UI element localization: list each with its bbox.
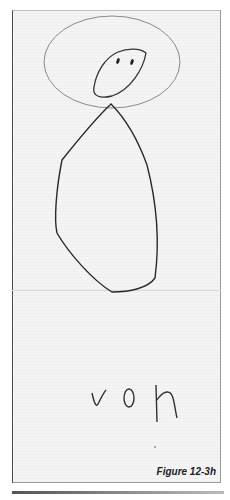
left-eye [116, 58, 121, 65]
head-outline [94, 49, 146, 97]
halo-oval [44, 16, 180, 108]
bottom-rule [12, 491, 224, 494]
body-outline [56, 104, 158, 292]
stray-dot [154, 446, 156, 448]
letter-o [124, 389, 134, 407]
letter-h [156, 385, 177, 422]
figure-caption: Figure 12-3h [157, 466, 216, 477]
letter-v [92, 390, 106, 405]
child-drawing [0, 0, 230, 500]
right-eye [130, 59, 135, 66]
